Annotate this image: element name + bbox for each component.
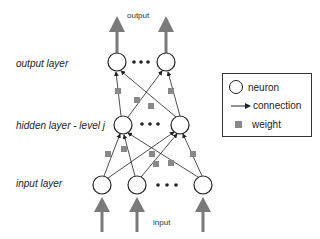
square-icon: [235, 121, 242, 128]
legend-label: neuron: [248, 82, 279, 93]
output-neuron-2: [157, 53, 175, 71]
neurons: [93, 53, 212, 194]
input-neuron-1: [93, 176, 111, 194]
input-arrows: [94, 197, 211, 232]
legend-label: weight: [252, 119, 281, 130]
output-neuron-1: [108, 53, 126, 71]
arrow-right-icon: [231, 102, 251, 110]
legend-label: connection: [253, 100, 301, 111]
legend-item-neuron: neuron: [223, 80, 279, 94]
circle-icon: [229, 80, 243, 94]
legend: neuron connection weight: [222, 73, 312, 137]
hidden-neuron-1: [114, 116, 132, 134]
legend-item-weight: weight: [223, 119, 281, 130]
input-neuron-3: [194, 176, 212, 194]
legend-item-connection: connection: [223, 100, 301, 111]
output-arrows: [109, 16, 174, 53]
hidden-neuron-2: [171, 116, 189, 134]
input-neuron-2: [128, 176, 146, 194]
